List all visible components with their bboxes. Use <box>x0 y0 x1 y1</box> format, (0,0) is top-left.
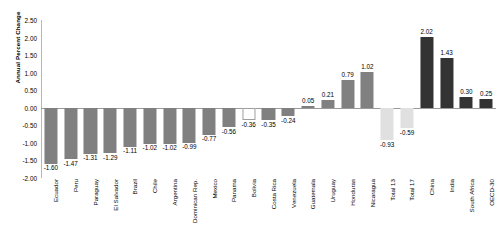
bar[interactable] <box>143 108 156 144</box>
x-tick-label: Dominican Rep. <box>192 179 198 223</box>
bar-value-label: 0.05 <box>302 98 314 104</box>
bar[interactable] <box>361 72 374 108</box>
bar[interactable] <box>242 108 255 121</box>
bar[interactable] <box>123 108 136 147</box>
bar-value-label: -1.02 <box>162 145 176 151</box>
bar[interactable] <box>302 106 315 108</box>
bar[interactable] <box>460 97 473 108</box>
bar-value-label: -0.56 <box>222 129 236 135</box>
y-tick-label: 2.00 <box>0 34 40 41</box>
bar-value-label: -0.24 <box>281 118 295 124</box>
bar-group: -0.93 <box>377 20 397 178</box>
bar-value-label: 0.30 <box>460 89 472 95</box>
bar-group: -0.24 <box>278 20 298 178</box>
bar-value-label: -0.77 <box>202 136 216 142</box>
bar[interactable] <box>183 108 196 143</box>
bar-group: -0.77 <box>199 20 219 178</box>
bar[interactable] <box>262 108 275 120</box>
y-tick-label: -2.00 <box>0 175 40 182</box>
bar[interactable] <box>480 99 493 108</box>
bar-value-label: -0.93 <box>380 142 394 148</box>
x-tick-label: Chile <box>152 179 158 193</box>
y-tick-label: 2.50 <box>0 17 40 24</box>
bar-value-label: -0.36 <box>242 122 256 128</box>
bar[interactable] <box>282 108 295 116</box>
plot-area: -1.60-1.47-1.31-1.29-1.11-1.02-1.02-0.99… <box>41 20 496 178</box>
bar[interactable] <box>104 108 117 153</box>
x-tick-label: China <box>429 179 435 195</box>
bar-group: -0.59 <box>397 20 417 178</box>
x-tick-label: Brazil <box>132 179 138 194</box>
x-tick-label: Guatemala <box>310 179 316 209</box>
bar[interactable] <box>420 37 433 108</box>
bar-group: 0.21 <box>318 20 338 178</box>
y-tick-label: 1.00 <box>0 69 40 76</box>
bar-group: 1.43 <box>437 20 457 178</box>
bar-chart: Annual Percent Change 2.502.001.501.000.… <box>0 0 500 246</box>
x-tick-label: Mexico <box>212 179 218 199</box>
bar-group: 0.79 <box>338 20 358 178</box>
bar-group: 0.25 <box>476 20 496 178</box>
bar-group: -1.47 <box>61 20 81 178</box>
bar-group: -0.56 <box>219 20 239 178</box>
bar-value-label: -1.11 <box>123 148 137 154</box>
x-tick-label: Panama <box>231 179 237 202</box>
x-tick-label: Uruguay <box>330 179 336 202</box>
bar-value-label: 1.02 <box>361 64 373 70</box>
bar-group: 0.05 <box>298 20 318 178</box>
bar-value-label: 0.79 <box>341 72 353 78</box>
bar[interactable] <box>203 108 216 135</box>
x-tick-label: Paraguay <box>93 179 99 206</box>
y-axis-ticks: 2.502.001.501.000.500.00-0.50-1.00-1.50-… <box>0 0 40 246</box>
y-tick-label: -1.50 <box>0 157 40 164</box>
x-tick-label: Total 17 <box>409 179 415 201</box>
bar-group: -1.60 <box>41 20 61 178</box>
x-tick-label: Ecuador <box>53 179 59 202</box>
bar[interactable] <box>222 108 235 128</box>
bar[interactable] <box>440 58 453 108</box>
bar-group: 2.02 <box>417 20 437 178</box>
bar-value-label: 0.25 <box>480 91 492 97</box>
bar-value-label: 0.21 <box>322 92 334 98</box>
bar-group: 1.02 <box>358 20 378 178</box>
y-tick-label: 0.00 <box>0 104 40 111</box>
bar[interactable] <box>64 108 77 160</box>
x-tick-label: Honduras <box>350 179 356 206</box>
bar-group: -1.02 <box>160 20 180 178</box>
x-tick-label: Argentina <box>172 179 178 206</box>
bar-group: -0.36 <box>239 20 259 178</box>
x-tick-label: Peru <box>73 179 79 192</box>
x-tick-label: South Africa <box>469 179 475 212</box>
bar-group: -1.31 <box>81 20 101 178</box>
bar-value-label: -1.47 <box>63 161 77 167</box>
bar[interactable] <box>84 108 97 154</box>
y-tick-label: 0.50 <box>0 87 40 94</box>
bar[interactable] <box>381 108 394 141</box>
bar-value-label: -0.59 <box>400 130 414 136</box>
bar-group: -1.11 <box>120 20 140 178</box>
x-tick-label: Venezuela <box>291 179 297 208</box>
bar-group: 0.30 <box>456 20 476 178</box>
x-tick-label: El Salvador <box>113 179 119 211</box>
x-tick-label: India <box>449 179 455 192</box>
bar-group: -0.35 <box>259 20 279 178</box>
x-tick-label: Total 13 <box>390 179 396 201</box>
bar-value-label: -1.29 <box>103 155 117 161</box>
bar-group: -1.29 <box>100 20 120 178</box>
bar[interactable] <box>341 80 354 108</box>
bar-group: -1.02 <box>140 20 160 178</box>
bar[interactable] <box>44 108 57 164</box>
x-tick-label: Bolivia <box>251 179 257 197</box>
x-tick-label: Nicaragua <box>370 179 376 207</box>
bar[interactable] <box>321 100 334 107</box>
bar-value-label: -1.02 <box>143 145 157 151</box>
bar-value-label: 2.02 <box>421 29 433 35</box>
bar[interactable] <box>163 108 176 144</box>
bar-value-label: 1.43 <box>440 50 452 56</box>
bar[interactable] <box>400 108 413 129</box>
y-tick-label: -1.00 <box>0 139 40 146</box>
y-tick-label: 1.50 <box>0 52 40 59</box>
x-tick-label: Costa Rica <box>271 179 277 209</box>
bar-group: -0.99 <box>179 20 199 178</box>
x-tick-label: OECD-30 <box>489 179 495 206</box>
